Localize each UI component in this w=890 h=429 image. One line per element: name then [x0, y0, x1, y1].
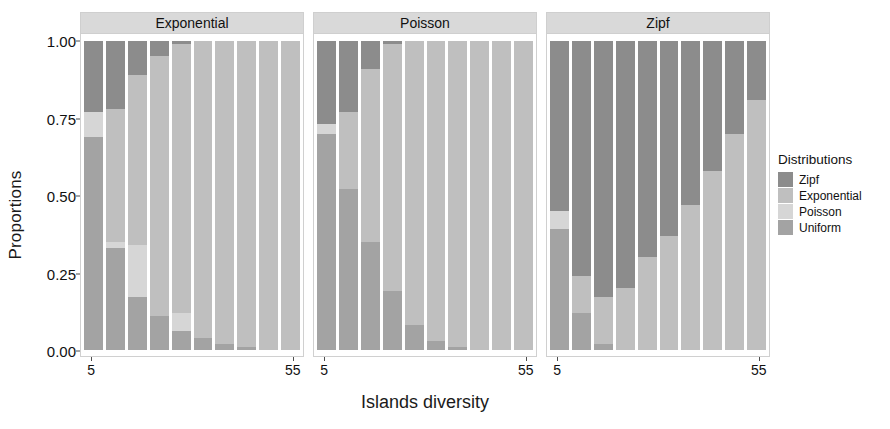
bar-segment-exponential	[405, 41, 424, 325]
legend-item-uniform[interactable]: Uniform	[778, 220, 888, 235]
x-tick-label: 5	[553, 362, 561, 378]
bar-segment-exponential	[660, 236, 679, 350]
x-tick-mark	[526, 357, 527, 361]
stacked-bar[interactable]	[492, 41, 511, 350]
stacked-bar[interactable]	[361, 41, 380, 350]
legend-swatch-icon	[778, 204, 793, 219]
legend-swatch-icon	[778, 220, 793, 235]
stacked-bar[interactable]	[237, 41, 256, 350]
bar-segment-exponential	[383, 44, 402, 291]
bar-segment-zipf	[339, 41, 358, 112]
x-tick-mark	[293, 357, 294, 361]
legend-title: Distributions	[778, 152, 888, 167]
stacked-bar[interactable]	[128, 41, 147, 350]
bar-segment-zipf	[616, 41, 635, 288]
stacked-bar[interactable]	[514, 41, 533, 350]
bar-segment-exponential	[281, 41, 300, 350]
stacked-bar[interactable]	[172, 41, 191, 350]
x-axis-panel: 555	[546, 357, 770, 383]
bar-segment-exponential	[150, 56, 169, 316]
bar-segment-zipf	[572, 41, 591, 276]
bar-segment-uniform	[594, 344, 613, 350]
stacked-bar[interactable]	[317, 41, 336, 350]
stacked-bar[interactable]	[681, 41, 700, 350]
stacked-bar[interactable]	[194, 41, 213, 350]
stacked-bar[interactable]	[747, 41, 766, 350]
y-tick-label: 0.00	[30, 343, 76, 360]
bar-segment-exponential	[572, 276, 591, 313]
stacked-bar[interactable]	[383, 41, 402, 350]
stacked-bar[interactable]	[660, 41, 679, 350]
stacked-bar[interactable]	[725, 41, 744, 350]
bar-segment-uniform	[572, 313, 591, 350]
legend-item-exponential[interactable]: Exponential	[778, 188, 888, 203]
legend-item-zipf[interactable]: Zipf	[778, 172, 888, 187]
stacked-bar[interactable]	[106, 41, 125, 350]
legend-item-label: Exponential	[799, 189, 862, 203]
facet-plot-area	[313, 34, 537, 357]
stacked-bar[interactable]	[405, 41, 424, 350]
legend-item-label: Poisson	[799, 205, 842, 219]
bar-segment-uniform	[194, 338, 213, 350]
stacked-bar[interactable]	[572, 41, 591, 350]
facet-panel-poisson: Poisson	[313, 12, 537, 357]
stacked-bar[interactable]	[703, 41, 722, 350]
bar-segment-exponential	[259, 41, 278, 350]
bar-segment-poisson	[84, 112, 103, 137]
bar-segment-exponential	[448, 41, 467, 347]
facet-panel-exponential: Exponential	[80, 12, 304, 357]
facet-plot-area	[80, 34, 304, 357]
bar-segment-zipf	[638, 41, 657, 257]
legend-item-label: Uniform	[799, 221, 841, 235]
bar-segment-exponential	[514, 41, 533, 350]
stacked-bar[interactable]	[339, 41, 358, 350]
bar-segment-exponential	[128, 75, 147, 245]
bar-segment-exponential	[594, 297, 613, 343]
stacked-bar[interactable]	[638, 41, 657, 350]
y-tick-mark	[76, 196, 80, 197]
bar-segment-uniform	[106, 248, 125, 350]
stacked-bar[interactable]	[550, 41, 569, 350]
stacked-bar[interactable]	[150, 41, 169, 350]
bar-segment-exponential	[616, 288, 635, 350]
x-axis-panel: 555	[80, 357, 304, 383]
stacked-bar[interactable]	[594, 41, 613, 350]
facet-strip-label: Exponential	[80, 12, 304, 34]
bar-segment-exponential	[747, 100, 766, 350]
stacked-bar[interactable]	[84, 41, 103, 350]
bar-segment-zipf	[317, 41, 336, 124]
stacked-bar[interactable]	[470, 41, 489, 350]
bar-segment-exponential	[106, 109, 125, 242]
bar-segment-uniform	[383, 291, 402, 350]
y-tick-mark	[76, 41, 80, 42]
bar-segment-exponential	[237, 41, 256, 347]
bar-segment-zipf	[128, 41, 147, 75]
stacked-bar[interactable]	[616, 41, 635, 350]
legend-item-poisson[interactable]: Poisson	[778, 204, 888, 219]
bar-segment-exponential	[703, 171, 722, 350]
stacked-bar[interactable]	[448, 41, 467, 350]
legend-item-label: Zipf	[799, 173, 819, 187]
bar-segment-uniform	[339, 189, 358, 350]
bar-segment-uniform	[427, 341, 446, 350]
stacked-bar[interactable]	[281, 41, 300, 350]
y-tick-label: 1.00	[30, 33, 76, 50]
stacked-bar[interactable]	[215, 41, 234, 350]
bar-segment-uniform	[215, 344, 234, 350]
facet-strip-label: Poisson	[313, 12, 537, 34]
bar-segment-zipf	[681, 41, 700, 205]
bar-segment-exponential	[361, 69, 380, 242]
legend-swatch-icon	[778, 188, 793, 203]
x-axis-ticks: 555555555	[80, 357, 770, 383]
y-tick-label: 0.25	[30, 265, 76, 282]
legend-swatch-icon	[778, 172, 793, 187]
x-tick-mark	[557, 357, 558, 361]
facet-panel-zipf: Zipf	[546, 12, 770, 357]
stacked-bar[interactable]	[259, 41, 278, 350]
bar-segment-exponential	[725, 134, 744, 350]
bar-segment-exponential	[638, 257, 657, 350]
x-tick-label: 55	[518, 362, 534, 378]
bar-segment-exponential	[194, 41, 213, 338]
stacked-bar[interactable]	[427, 41, 446, 350]
x-axis-title: Islands diversity	[80, 392, 770, 413]
